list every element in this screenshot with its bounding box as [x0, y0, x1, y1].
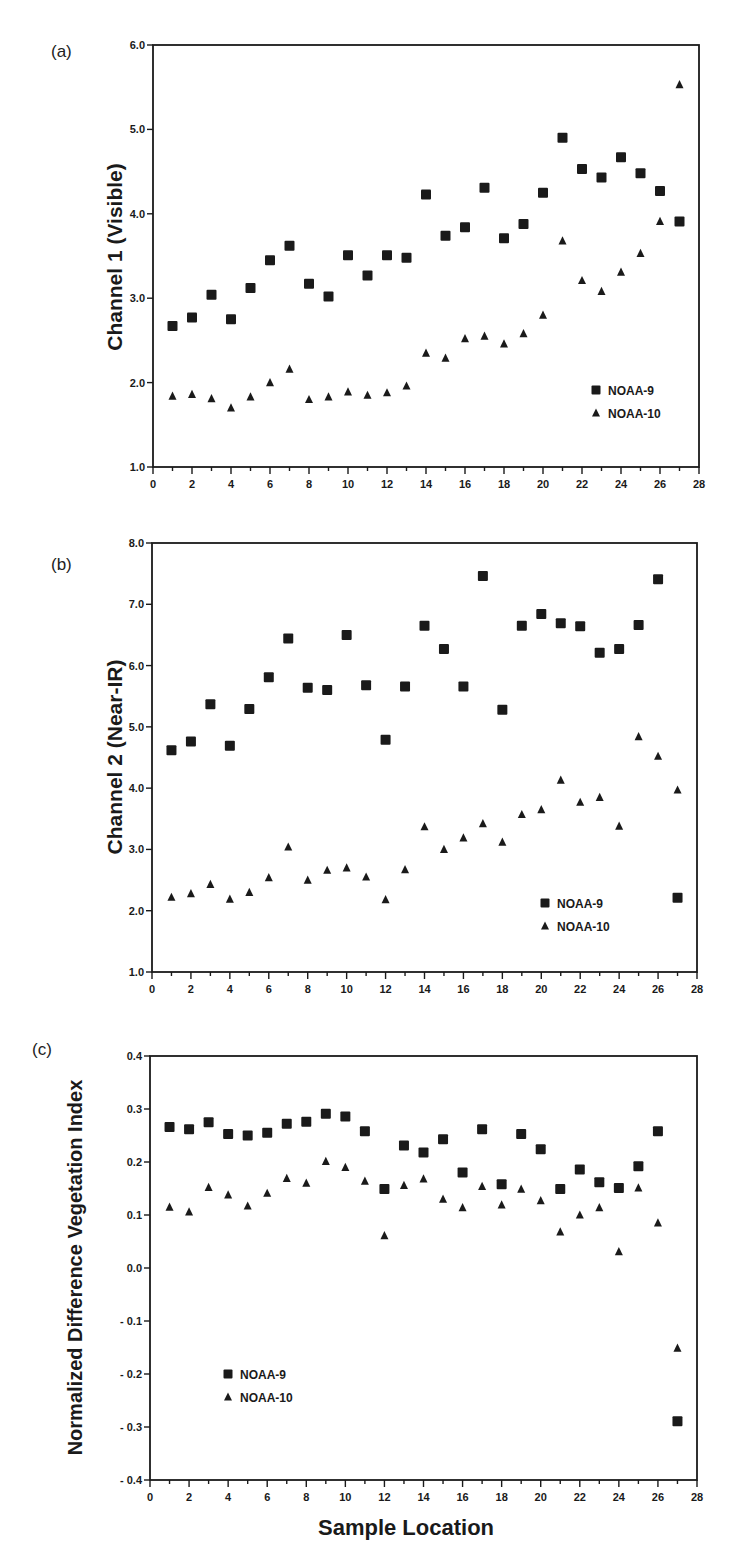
- square-marker-icon: [243, 1131, 253, 1141]
- y-tick-label: - 0.3: [120, 1421, 142, 1433]
- triangle-marker-icon: [224, 1190, 232, 1198]
- square-marker-icon: [204, 1117, 214, 1127]
- y-tick-label: - 0.4: [120, 1474, 143, 1486]
- square-marker-icon: [321, 1109, 331, 1119]
- square-marker-icon: [516, 1129, 526, 1139]
- triangle-marker-icon: [185, 1207, 193, 1215]
- square-marker-icon: [224, 1370, 233, 1379]
- triangle-marker-icon: [263, 1189, 271, 1197]
- x-tick-label: 12: [378, 1491, 390, 1503]
- x-tick-label: 24: [613, 1491, 626, 1503]
- triangle-marker-icon: [380, 1231, 388, 1239]
- triangle-marker-icon: [166, 1202, 174, 1210]
- legend: NOAA-9NOAA-10: [224, 1368, 294, 1405]
- triangle-marker-icon: [634, 1183, 642, 1191]
- triangle-marker-icon: [556, 1227, 564, 1235]
- triangle-marker-icon: [341, 1163, 349, 1171]
- square-marker-icon: [575, 1164, 585, 1174]
- triangle-marker-icon: [420, 1174, 428, 1182]
- x-tick-label: 10: [339, 1491, 351, 1503]
- y-tick-label: - 0.2: [120, 1368, 142, 1380]
- triangle-marker-icon: [400, 1181, 408, 1189]
- square-marker-icon: [379, 1184, 389, 1194]
- triangle-marker-icon: [224, 1392, 232, 1400]
- triangle-marker-icon: [595, 1203, 603, 1211]
- square-marker-icon: [360, 1126, 370, 1136]
- square-marker-icon: [340, 1111, 350, 1121]
- triangle-marker-icon: [205, 1183, 213, 1191]
- y-tick-label: 0.2: [127, 1156, 142, 1168]
- x-axis-title-c: Sample Location: [318, 1515, 494, 1541]
- triangle-marker-icon: [283, 1174, 291, 1182]
- square-marker-icon: [633, 1161, 643, 1171]
- square-marker-icon: [282, 1119, 292, 1129]
- square-marker-icon: [399, 1141, 409, 1151]
- y-tick-label: 0.0: [127, 1262, 142, 1274]
- triangle-marker-icon: [654, 1218, 662, 1226]
- triangle-marker-icon: [459, 1203, 467, 1211]
- square-marker-icon: [536, 1144, 546, 1154]
- triangle-marker-icon: [498, 1200, 506, 1208]
- square-marker-icon: [301, 1117, 311, 1127]
- triangle-marker-icon: [439, 1195, 447, 1203]
- triangle-marker-icon: [537, 1196, 545, 1204]
- square-marker-icon: [555, 1184, 565, 1194]
- square-marker-icon: [184, 1124, 194, 1134]
- square-marker-icon: [223, 1129, 233, 1139]
- triangle-marker-icon: [673, 1343, 681, 1351]
- x-tick-label: 14: [417, 1491, 430, 1503]
- triangle-marker-icon: [615, 1247, 623, 1255]
- triangle-marker-icon: [576, 1210, 584, 1218]
- square-marker-icon: [594, 1177, 604, 1187]
- chart-c: 0246810121416182022242628- 0.4- 0.3- 0.2…: [0, 0, 739, 1560]
- x-tick-label: 20: [535, 1491, 547, 1503]
- legend-label: NOAA-10: [240, 1391, 293, 1405]
- triangle-marker-icon: [244, 1201, 252, 1209]
- y-tick-label: - 0.1: [120, 1315, 142, 1327]
- triangle-marker-icon: [517, 1184, 525, 1192]
- x-tick-label: 18: [496, 1491, 508, 1503]
- y-tick-label: 0.1: [127, 1209, 142, 1221]
- triangle-marker-icon: [478, 1182, 486, 1190]
- square-marker-icon: [672, 1416, 682, 1426]
- x-tick-label: 26: [652, 1491, 664, 1503]
- square-marker-icon: [653, 1126, 663, 1136]
- legend-label: NOAA-9: [240, 1368, 286, 1382]
- y-tick-label: 0.3: [127, 1103, 142, 1115]
- x-tick-label: 2: [186, 1491, 192, 1503]
- square-marker-icon: [497, 1179, 507, 1189]
- square-marker-icon: [262, 1128, 272, 1138]
- triangle-marker-icon: [361, 1176, 369, 1184]
- x-tick-label: 22: [574, 1491, 586, 1503]
- x-tick-label: 28: [691, 1491, 703, 1503]
- triangle-marker-icon: [302, 1179, 310, 1187]
- triangle-marker-icon: [322, 1157, 330, 1165]
- square-marker-icon: [438, 1134, 448, 1144]
- panel-c: (c) Normalized Difference Vegetation Ind…: [0, 0, 739, 1560]
- x-tick-label: 6: [264, 1491, 270, 1503]
- square-marker-icon: [477, 1124, 487, 1134]
- square-marker-icon: [458, 1168, 468, 1178]
- square-marker-icon: [419, 1147, 429, 1157]
- plot-frame: [150, 1056, 697, 1480]
- x-tick-label: 16: [456, 1491, 468, 1503]
- square-marker-icon: [614, 1183, 624, 1193]
- x-tick-label: 0: [147, 1491, 153, 1503]
- y-tick-label: 0.4: [127, 1050, 143, 1062]
- x-tick-label: 8: [303, 1491, 309, 1503]
- x-tick-label: 4: [225, 1491, 232, 1503]
- square-marker-icon: [165, 1122, 175, 1132]
